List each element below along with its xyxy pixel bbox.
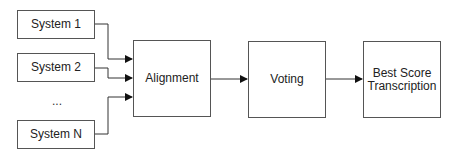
voting-label: Voting	[270, 73, 303, 86]
best-score-label-line1: Best Score	[373, 67, 432, 80]
system-2-label: System 2	[31, 61, 81, 74]
system-n-box: System N	[17, 120, 95, 149]
ellipsis: ...	[52, 94, 62, 108]
best-score-label-line2: Transcription	[368, 80, 437, 93]
system-2-box: System 2	[17, 53, 95, 82]
system-1-box: System 1	[17, 10, 95, 39]
system-n-label: System N	[30, 128, 82, 141]
voting-box: Voting	[248, 41, 326, 118]
arrow-system2-alignment	[95, 68, 132, 78]
system-1-label: System 1	[31, 18, 81, 31]
arrow-system1-alignment	[95, 24, 132, 59]
alignment-box: Alignment	[133, 40, 211, 117]
best-score-transcription-box: Best Score Transcription	[363, 41, 441, 118]
arrow-systemN-alignment	[95, 97, 132, 134]
alignment-label: Alignment	[145, 72, 198, 85]
